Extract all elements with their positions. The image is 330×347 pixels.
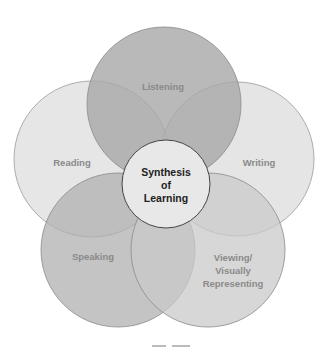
label-writing: Writing: [243, 157, 276, 168]
center-label-line1: Synthesis: [141, 166, 191, 178]
label-viewing-line3: Representing: [203, 278, 264, 289]
label-listening: Listening: [142, 81, 184, 92]
label-reading: Reading: [53, 157, 91, 168]
synthesis-of-learning-diagram: Listening Reading Writing Speaking Viewi…: [0, 0, 330, 347]
center-label-line2: of: [161, 179, 171, 191]
label-speaking: Speaking: [72, 251, 114, 262]
label-viewing-line2: Visually: [215, 265, 251, 276]
center-label-line3: Learning: [144, 192, 188, 204]
label-viewing-line1: Viewing/: [214, 252, 253, 263]
